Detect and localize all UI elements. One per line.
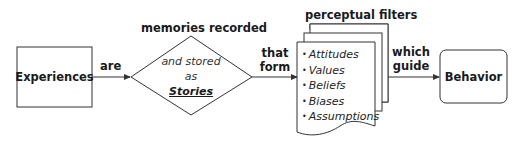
stories-keyword: Stories <box>151 84 231 99</box>
filters-title: perceptual filters <box>305 8 417 22</box>
filter-item-attitudes: Attitudes <box>302 48 379 64</box>
stories-title: memories recorded <box>141 21 267 35</box>
edge-label-that: that <box>259 46 291 60</box>
edge-label-form: form <box>259 60 291 74</box>
edge-label-guide: guide <box>392 59 430 73</box>
filter-item-beliefs: Beliefs <box>302 79 379 95</box>
stories-diamond-text: and stored as Stories <box>151 54 231 99</box>
behavior-label: Behavior <box>440 50 507 103</box>
filter-item-assumptions: Assumptions <box>302 110 379 126</box>
stories-line-2: as <box>151 69 231 84</box>
edge-label-which: which <box>392 45 430 59</box>
filter-item-values: Values <box>302 64 379 80</box>
edge-label-are: are <box>100 59 121 73</box>
edge-label-which-guide: which guide <box>392 45 430 73</box>
experiences-label: Experiences <box>17 47 92 107</box>
filter-item-biases: Biases <box>302 95 379 111</box>
edge-label-that-form: that form <box>259 46 291 74</box>
filters-list: Attitudes Values Beliefs Biases Assumpti… <box>302 48 379 126</box>
stories-line-1: and stored <box>151 54 231 69</box>
